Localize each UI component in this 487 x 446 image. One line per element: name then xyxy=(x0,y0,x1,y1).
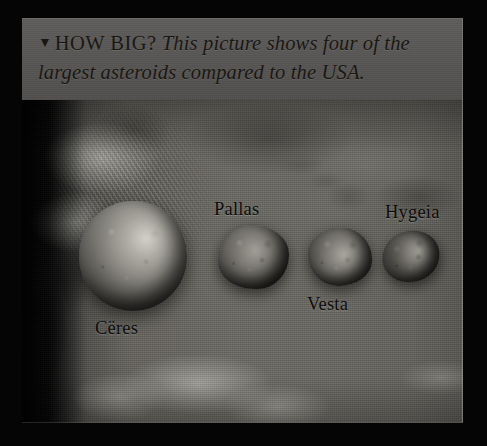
caption-headline: HOW BIG? xyxy=(55,32,157,54)
asteroid-label-ceres: Cëres xyxy=(95,319,138,338)
vesta-surface-texture xyxy=(308,228,372,286)
asteroid-scale-photo xyxy=(22,100,463,423)
caption-text: ▼HOW BIG? This picture shows four of the… xyxy=(38,28,448,87)
asteroid-label-hygeia: Hygeia xyxy=(385,203,440,222)
down-triangle-bullet-icon: ▼ xyxy=(38,35,52,50)
asteroid-label-pallas: Pallas xyxy=(214,200,259,219)
page-root: ▼HOW BIG? This picture shows four of the… xyxy=(0,0,487,446)
asteroid-label-vesta: Vesta xyxy=(307,295,348,314)
asteroid-vesta xyxy=(308,228,372,286)
ceres-surface-texture xyxy=(79,201,187,311)
pallas-surface-texture xyxy=(218,225,289,289)
asteroid-pallas xyxy=(218,225,289,289)
caption-box: ▼HOW BIG? This picture shows four of the… xyxy=(22,18,463,100)
asteroid-ceres xyxy=(79,201,187,311)
